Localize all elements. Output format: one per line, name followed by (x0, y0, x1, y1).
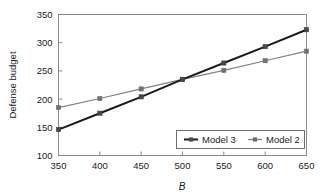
line-chart: 100150200250300350 350400450500550600650… (0, 0, 327, 196)
data-point-marker (263, 59, 267, 63)
series-model-3 (56, 28, 308, 132)
chart-container: 100150200250300350 350400450500550600650… (0, 0, 327, 196)
x-tick-label: 350 (51, 160, 67, 171)
data-point-marker (139, 87, 143, 91)
series-layer (56, 28, 308, 132)
data-point-marker (139, 95, 143, 99)
x-axis-tick-labels: 350400450500550600650 (51, 160, 315, 171)
y-axis-title: Defense budget (7, 51, 18, 118)
data-point-marker (222, 61, 226, 65)
y-tick-label: 150 (37, 122, 53, 133)
x-tick-label: 500 (175, 160, 191, 171)
data-point-marker (56, 127, 60, 131)
data-point-marker (263, 45, 267, 49)
x-tick-label: 400 (92, 160, 108, 171)
legend-label: Model 2 (266, 134, 300, 145)
data-point-marker (98, 111, 102, 115)
legend-marker-sample (189, 137, 193, 141)
x-tick-label: 600 (257, 160, 273, 171)
legend-marker-sample (253, 137, 257, 141)
y-axis-ticks (59, 15, 63, 156)
x-axis-ticks (59, 152, 307, 156)
data-point-marker (304, 49, 308, 53)
x-tick-label: 550 (216, 160, 232, 171)
legend-label: Model 3 (202, 134, 236, 145)
y-tick-label: 350 (37, 9, 53, 20)
x-axis-title: B (179, 181, 186, 192)
data-point-marker (304, 28, 308, 32)
data-point-marker (180, 77, 184, 81)
data-point-marker (98, 96, 102, 100)
chart-legend: Model 3Model 2 (177, 131, 305, 149)
y-tick-label: 300 (37, 37, 53, 48)
y-tick-label: 200 (37, 94, 53, 105)
x-tick-label: 650 (299, 160, 315, 171)
data-point-marker (222, 68, 226, 72)
y-tick-label: 250 (37, 65, 53, 76)
x-tick-label: 450 (133, 160, 149, 171)
data-point-marker (56, 105, 60, 109)
y-axis-tick-labels: 100150200250300350 (37, 9, 53, 161)
